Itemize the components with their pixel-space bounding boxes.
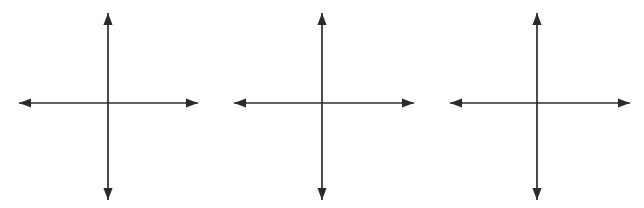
coordinate-planes-canvas bbox=[0, 0, 644, 208]
figure-root: Three blank Cartesian coordinate planes bbox=[0, 0, 644, 208]
